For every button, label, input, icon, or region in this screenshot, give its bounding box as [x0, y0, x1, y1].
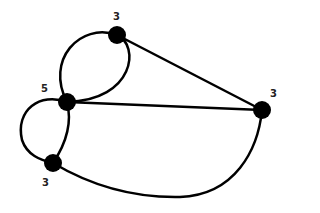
node-b[interactable]: [58, 93, 76, 111]
node-b-label: 5: [41, 83, 48, 94]
node-d[interactable]: [44, 154, 62, 172]
node-c[interactable]: [253, 101, 271, 119]
edge-a-c: [117, 35, 262, 110]
node-c-label: 3: [270, 88, 277, 99]
edge-d-c: [53, 110, 262, 197]
edge-b-d-right: [53, 102, 69, 163]
node-d-label: 3: [42, 177, 49, 188]
edge-b-c: [67, 102, 262, 110]
node-a-label: 3: [113, 11, 120, 22]
node-a[interactable]: [108, 26, 126, 44]
edge-a-b-right: [67, 35, 129, 102]
